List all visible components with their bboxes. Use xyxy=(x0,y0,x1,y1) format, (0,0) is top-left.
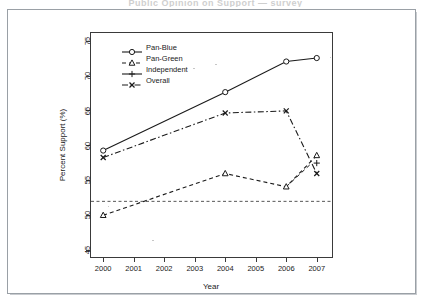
scan-speckle xyxy=(330,57,331,58)
y-tick-label: 75 xyxy=(83,37,91,45)
x-tick-label: 2006 xyxy=(278,265,295,273)
legend-key-plus-icon xyxy=(121,65,143,75)
x-tick-mark xyxy=(134,257,135,262)
data-point-triangle xyxy=(222,170,228,175)
data-point-circle xyxy=(284,59,289,64)
x-tick-mark xyxy=(195,257,196,262)
x-tick-mark xyxy=(164,257,165,262)
y-tick-label: 65 xyxy=(83,107,91,115)
series-overall xyxy=(101,108,320,176)
x-tick-label: 2005 xyxy=(247,265,264,273)
series-line xyxy=(103,155,317,215)
y-tick-label: 45 xyxy=(83,246,91,254)
x-tick-mark xyxy=(317,257,318,262)
data-point-cross xyxy=(130,83,135,88)
plot-inner: 45505560657075 2000200120022003200420052… xyxy=(91,33,332,257)
data-point-plus xyxy=(314,160,320,166)
scan-title-fragment: Public Opinion on Support — survey xyxy=(0,0,431,7)
legend-label: Pan-Green xyxy=(143,54,183,64)
legend-item-pan-blue[interactable]: Pan-Blue xyxy=(121,43,188,53)
x-tick-mark xyxy=(225,257,226,262)
legend-label: Pan-Blue xyxy=(143,43,177,53)
legend-key-triangle-icon xyxy=(121,54,143,64)
x-tick-label: 2002 xyxy=(156,265,173,273)
series-independent xyxy=(314,160,320,166)
figure-frame: Percent Support (%) Year 45505560657075 … xyxy=(7,9,416,294)
data-point-circle xyxy=(314,55,319,60)
data-point-cross xyxy=(101,155,106,160)
data-point-triangle xyxy=(314,152,320,157)
legend-key-circle-icon xyxy=(121,43,143,53)
legend-label: Independent xyxy=(143,65,188,75)
y-tick-label: 55 xyxy=(83,176,91,184)
y-tick-label: 70 xyxy=(83,72,91,80)
scan-speckle xyxy=(108,206,109,207)
legend-item-pan-green[interactable]: Pan-Green xyxy=(121,54,188,64)
x-tick-label: 2000 xyxy=(95,265,112,273)
scan-speckle xyxy=(152,240,154,241)
legend-item-overall[interactable]: Overall xyxy=(121,76,188,86)
y-tick-label: 50 xyxy=(83,211,91,219)
data-point-cross xyxy=(314,171,319,176)
x-axis-title: Year xyxy=(203,282,219,291)
plot-area: 45505560657075 2000200120022003200420052… xyxy=(90,32,333,258)
x-tick-mark xyxy=(256,257,257,262)
data-point-circle xyxy=(223,90,228,95)
x-tick-label: 2001 xyxy=(125,265,142,273)
x-tick-label: 2003 xyxy=(186,265,203,273)
data-point-cross xyxy=(223,111,228,116)
data-point-circle xyxy=(101,148,106,153)
chart-screenshot: Public Opinion on Support — survey Perce… xyxy=(0,0,431,304)
legend-label: Overall xyxy=(143,76,170,86)
legend-key-cross-icon xyxy=(121,76,143,86)
x-tick-mark xyxy=(103,257,104,262)
y-axis-title: Percent Support (%) xyxy=(58,109,67,181)
x-tick-mark xyxy=(286,257,287,262)
x-tick-label: 2007 xyxy=(308,265,325,273)
legend-item-independent[interactable]: Independent xyxy=(121,65,188,75)
series-line xyxy=(103,111,317,174)
series-pan-green xyxy=(100,152,319,217)
chart-legend: Pan-BluePan-GreenIndependentOverall xyxy=(121,43,188,86)
y-tick-label: 60 xyxy=(83,142,91,150)
x-tick-label: 2004 xyxy=(217,265,234,273)
